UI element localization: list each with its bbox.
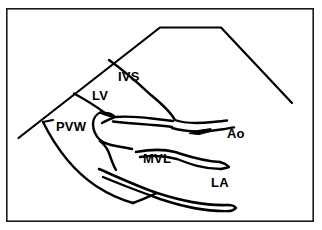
echocardiogram-canvas: IVS LV PVW Ao MVL LA [0,0,322,230]
label-lv: LV [92,88,108,103]
echocardiogram-figure: IVS LV PVW Ao MVL LA [0,0,322,230]
label-mvl: MVL [143,151,171,166]
pvw-epicardial-border [43,122,133,203]
figure-border [7,9,313,221]
label-ivs: IVS [118,69,140,84]
aml-upper-line [115,117,173,121]
mvl-distal-tip [220,162,229,169]
lv-posterior-wall-upper [93,112,101,140]
aml-lower-line [113,122,172,128]
label-pvw: PVW [56,119,87,134]
label-ao: Ao [227,126,245,141]
pvw-tick [43,120,53,122]
ivs-distal-upper-line [175,120,227,123]
label-la: LA [211,175,229,190]
